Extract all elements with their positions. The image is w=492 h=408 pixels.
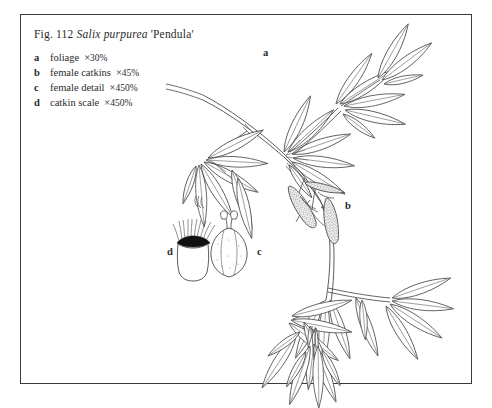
legend-key-b: b bbox=[34, 66, 50, 81]
figure-label-a: a bbox=[263, 47, 268, 58]
legend-magnification-b: ×45% bbox=[116, 66, 139, 81]
legend-key-c: c bbox=[34, 81, 50, 96]
figure-label-b: b bbox=[345, 200, 351, 211]
legend-item-b: b female catkins ×45% bbox=[34, 66, 274, 81]
caption-block: Fig. 112 Salix purpurea 'Pendula' a foli… bbox=[34, 28, 274, 111]
legend-item-d: d catkin scale ×450% bbox=[34, 96, 274, 111]
legend-magnification-c: ×450% bbox=[110, 81, 138, 96]
legend-label-a: foliage bbox=[50, 51, 79, 66]
legend-item-c: c female detail ×450% bbox=[34, 81, 274, 96]
legend-label-b: female catkins bbox=[50, 66, 111, 81]
illustration-plate: Fig. 112 Salix purpurea 'Pendula' a foli… bbox=[0, 0, 492, 408]
legend-key-d: d bbox=[34, 96, 50, 111]
legend-list: a foliage ×30% b female catkins ×45% c f… bbox=[34, 51, 274, 111]
figure-label-c: c bbox=[257, 246, 262, 257]
legend-magnification-d: ×450% bbox=[104, 96, 132, 111]
legend-label-d: catkin scale bbox=[50, 96, 99, 111]
legend-label-c: female detail bbox=[50, 81, 105, 96]
cultivar-name: 'Pendula' bbox=[148, 28, 194, 40]
legend-key-a: a bbox=[34, 51, 50, 66]
figure-label-d: d bbox=[167, 246, 173, 257]
figure-number: Fig. 112 bbox=[34, 28, 77, 40]
legend-magnification-a: ×30% bbox=[84, 51, 107, 66]
figure-title: Fig. 112 Salix purpurea 'Pendula' bbox=[34, 28, 274, 40]
legend-item-a: a foliage ×30% bbox=[34, 51, 274, 66]
species-name: Salix purpurea bbox=[77, 28, 148, 40]
